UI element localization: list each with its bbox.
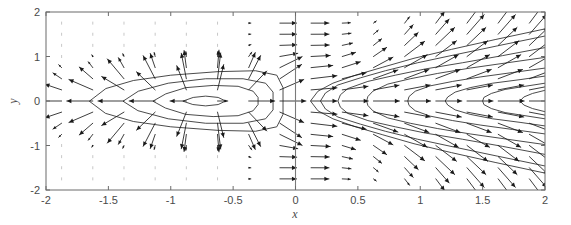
quiver-arrow bbox=[529, 146, 550, 162]
quiver-arrow bbox=[342, 22, 350, 25]
x-tick-label: -2 bbox=[41, 194, 51, 206]
quiver-arrow bbox=[436, 168, 449, 183]
x-tick-label: 2 bbox=[542, 194, 548, 206]
quiver-arrow bbox=[311, 43, 329, 47]
quiver-arrow bbox=[436, 99, 462, 103]
quiver-arrow bbox=[311, 134, 333, 138]
quiver-arrow bbox=[154, 146, 156, 150]
quiver-arrow bbox=[311, 123, 337, 128]
quiver-arrow bbox=[436, 112, 462, 118]
quiver-arrow bbox=[405, 112, 431, 118]
quiver-arrow bbox=[498, 112, 524, 118]
quiver-arrow bbox=[280, 112, 304, 123]
quiver-arrow bbox=[280, 79, 304, 90]
x-tick-label: -0.5 bbox=[224, 194, 243, 206]
quiver-arrow bbox=[311, 32, 329, 36]
quiver-arrow bbox=[405, 168, 414, 178]
quiver-arrow bbox=[107, 123, 124, 143]
quiver-arrow bbox=[342, 157, 352, 160]
quiver-arrow bbox=[436, 27, 455, 45]
quiver-arrow bbox=[249, 99, 275, 103]
y-tick-label: -1 bbox=[30, 140, 40, 152]
quiver-arrow bbox=[311, 144, 330, 148]
quiver-arrow bbox=[311, 64, 333, 68]
quiver-arrow bbox=[405, 157, 419, 170]
quiver-arrow bbox=[405, 84, 431, 90]
quiver-arrow bbox=[342, 99, 368, 103]
quiver-arrow bbox=[311, 177, 329, 181]
quiver-arrow bbox=[405, 179, 410, 185]
quiver-arrow bbox=[373, 168, 378, 172]
plot-canvas: -2-1.5-1-0.500.511.52 -2-1012 x y bbox=[0, 0, 571, 225]
quiver-arrow bbox=[92, 55, 94, 57]
quiver-arrow bbox=[311, 99, 337, 103]
quiver-arrow bbox=[436, 84, 462, 90]
y-axis-tick-labels: -2-1012 bbox=[30, 6, 40, 196]
quiver-arrow bbox=[249, 33, 251, 35]
quiver-arrow bbox=[249, 156, 251, 158]
quiver-arrow bbox=[373, 146, 386, 155]
quiver-arrow bbox=[41, 99, 62, 103]
quiver-arrow bbox=[249, 22, 251, 24]
quiver-arrow bbox=[467, 99, 493, 103]
quiver-arrow bbox=[342, 42, 352, 45]
quiver-arrow bbox=[436, 19, 449, 34]
quiver-arrow bbox=[467, 7, 479, 24]
quiver-arrow bbox=[311, 54, 330, 58]
quiver-arrow bbox=[136, 112, 155, 130]
quiver-arrow bbox=[280, 155, 297, 159]
y-tick-label: 0 bbox=[34, 95, 40, 107]
quiver-arrow bbox=[342, 146, 355, 151]
quiver-arrow bbox=[467, 179, 479, 196]
quiver-arrow bbox=[107, 59, 124, 79]
quiver-arrow bbox=[436, 157, 455, 175]
quiver-arrow bbox=[498, 99, 524, 103]
quiver-arrow bbox=[143, 123, 155, 146]
quiver-arrow bbox=[529, 69, 553, 79]
quiver-arrow bbox=[98, 99, 124, 103]
x-axis-title: x bbox=[291, 207, 298, 221]
quiver-arrow bbox=[342, 167, 351, 170]
quiver-arrow bbox=[311, 21, 329, 25]
quiver-arrow bbox=[280, 43, 297, 47]
quiver-arrow bbox=[498, 179, 514, 200]
quiver-arrow bbox=[529, 134, 552, 147]
quiver-arrow bbox=[59, 65, 62, 68]
quiver-arrow bbox=[373, 21, 376, 23]
quiver-arrow bbox=[436, 179, 445, 191]
quiver-arrow bbox=[79, 123, 93, 135]
x-axis-tick-labels: -2-1.5-1-0.500.511.52 bbox=[41, 194, 548, 206]
quiver-arrow bbox=[280, 32, 297, 36]
quiver-arrow bbox=[436, 123, 460, 133]
quiver-arrow bbox=[45, 112, 62, 118]
x-tick-label: 1 bbox=[417, 194, 423, 206]
quiver-arrow bbox=[373, 30, 378, 34]
quiver-arrows-group bbox=[41, 2, 556, 199]
quiver-arrow bbox=[436, 11, 445, 23]
quiver-arrow bbox=[180, 53, 186, 79]
quiver-arrow bbox=[249, 123, 261, 146]
quiver-arrow bbox=[311, 155, 329, 159]
quiver-arrow bbox=[102, 112, 124, 125]
quiver-arrow bbox=[118, 58, 124, 68]
quiver-arrow bbox=[249, 56, 261, 79]
quiver-arrow bbox=[280, 166, 297, 170]
quiver-arrow bbox=[342, 32, 351, 35]
quiver-arrow bbox=[405, 41, 425, 56]
quiver-arrow bbox=[180, 123, 186, 149]
quiver-arrow bbox=[529, 55, 552, 68]
quiver-arrow bbox=[92, 145, 94, 147]
quiver-arrow bbox=[529, 2, 545, 23]
quiver-arrow bbox=[498, 2, 514, 23]
y-axis-title: y bbox=[6, 98, 20, 105]
quiver-arrow bbox=[249, 178, 251, 180]
quiver-arrow bbox=[123, 54, 125, 57]
quiver-arrow bbox=[405, 17, 410, 23]
x-tick-label: -1.5 bbox=[99, 194, 118, 206]
quiver-arrow bbox=[405, 25, 414, 35]
quiver-arrow bbox=[342, 61, 360, 68]
quiver-arrow bbox=[67, 99, 93, 103]
contour-line bbox=[153, 85, 258, 116]
quiver-arrow bbox=[69, 112, 93, 123]
quiver-arrow bbox=[405, 33, 419, 46]
